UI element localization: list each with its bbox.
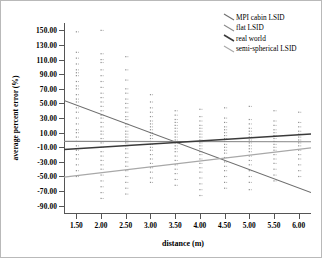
scatter-point [78,94,79,95]
scatter-point [125,119,126,120]
scatter-point [127,56,128,57]
scatter-point [78,81,79,82]
scatter-point [224,161,225,162]
scatter-point [224,122,225,123]
scatter-point [127,166,128,167]
y-tick-label: 10.00 [40,128,57,137]
scatter-point [103,118,104,119]
scatter-point [101,75,102,76]
scatter-point [127,194,128,195]
scatter-point [251,151,252,152]
scatter-point [273,158,274,159]
scatter-point [101,155,102,156]
scatter-point [101,106,102,107]
scatter-point [101,134,102,135]
scatter-point [298,145,299,146]
scatter-point [103,122,104,123]
x-tick-label: 5.50 [267,221,280,230]
scatter-point [103,151,104,152]
scatter-point [76,112,77,113]
scatter-point [103,138,104,139]
scatter-point [251,156,252,157]
scatter-point [300,150,301,151]
scatter-point [251,164,252,165]
scatter-point [199,163,200,164]
scatter-point [78,99,79,100]
scatter-point [226,176,227,177]
scatter-point [103,53,104,54]
scatter-point [224,150,225,151]
y-tick-label: 90.00 [40,70,57,79]
scatter-point [249,131,250,132]
scatter-point [273,110,274,111]
scatter-point [78,145,79,146]
scatter-point [249,189,250,190]
scatter-point [177,173,178,174]
y-tick-label: 110.00 [36,55,57,64]
scatter-point [298,158,299,159]
scatter-point [199,172,200,173]
scatter-point [276,138,277,139]
scatter-point [78,107,79,108]
x-tick-label: 4.50 [218,221,231,230]
scatter-point [199,154,200,155]
scatter-point [273,163,274,164]
scatter-point [298,136,299,137]
scatter-point [76,107,77,108]
scatter-point [103,175,104,176]
scatter-point [226,147,227,148]
scatter-point [103,169,104,170]
scatter-point [249,106,250,107]
scatter-point [127,137,128,138]
scatter-point [199,195,200,196]
scatter-point [300,154,301,155]
legend-label: MPI cabin LSID [236,13,285,22]
scatter-point [125,107,126,108]
x-tick [225,214,226,219]
scatter-point [175,125,176,126]
scatter-point [177,164,178,165]
scatter-point [78,85,79,86]
y-tick-label: -10.00 [37,143,57,152]
scatter-point [103,87,104,88]
legend-item: MPI cabin LSID [223,12,297,23]
scatter-point [127,142,128,143]
y-tick-label: -70.00 [37,187,57,196]
scatter-point [251,160,252,161]
scatter-point [150,123,151,124]
scatter-point [224,170,225,171]
scatter-point [152,94,153,95]
scatter-point [103,102,104,103]
scatter-point [103,134,104,135]
scatter-point [249,160,250,161]
scatter-point [101,138,102,139]
scatter-point [76,170,77,171]
scatter-point [150,120,151,121]
scatter-point [76,136,77,137]
scatter-point [177,131,178,132]
scatter-point [152,138,153,139]
scatter-point [78,176,79,177]
scatter-point [125,157,126,158]
scatter-point [199,128,200,129]
scatter-point [152,159,153,160]
x-tick [126,214,127,219]
legend-item: real world [223,33,297,44]
scatter-point [226,107,227,108]
scatter-point [177,110,178,111]
scatter-point [76,164,77,165]
scatter-point [125,112,126,113]
y-tick-label: -30.00 [37,157,57,166]
scatter-point [125,116,126,117]
scatter-point [177,160,178,161]
scatter-point [199,131,200,132]
scatter-point [103,81,104,82]
scatter-point [224,126,225,127]
scatter-point [298,131,299,132]
scatter-point [76,123,77,124]
x-tick-label: 5.00 [243,221,256,230]
scatter-point [175,173,176,174]
scatter-point [103,186,104,187]
scatter-point [103,160,104,161]
scatter-point [101,59,102,60]
